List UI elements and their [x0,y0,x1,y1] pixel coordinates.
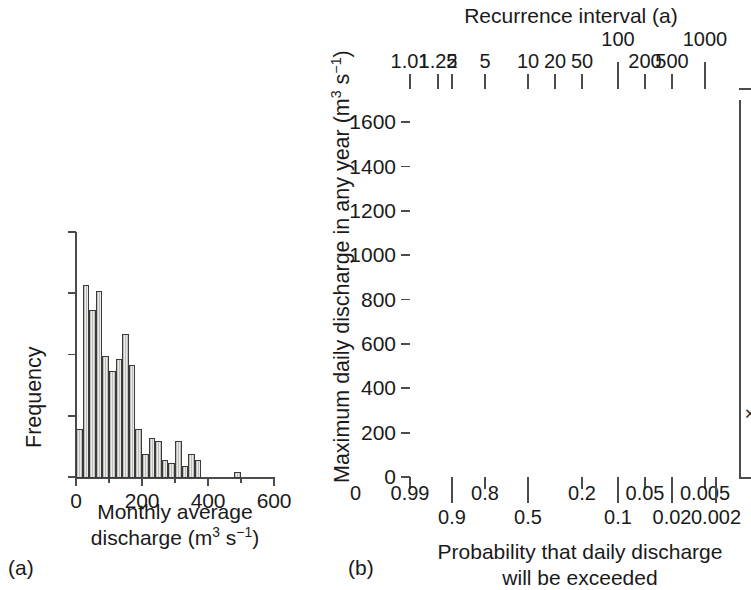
histogram-bar [96,291,103,478]
panel-b-caption: (b) [348,556,374,580]
histogram-bar-fill [84,286,89,477]
histogram-bar-fill [196,461,201,477]
panel-b-recurrence-label: 10 [517,50,539,72]
panel-b-probability-label: 0.5 [514,506,542,528]
panel-b-probability-tick [671,477,673,503]
histogram-bar-fill [90,311,95,477]
histogram-bar [102,356,109,479]
panel-b-y-tick-label: 1600 [349,110,396,134]
panel-b-recurrence-label: 100 [601,28,634,50]
panel-b-recurrence-tick [527,74,529,89]
histogram-bar-fill [163,461,168,477]
panel-b-probability-tick [527,477,529,503]
panel-b-recurrence-label: 5 [479,50,490,72]
histogram-bar-fill [183,467,188,477]
panel-b-probability-label: 0.2 [568,482,596,504]
histogram-bar [89,310,96,478]
panel-a-x-tick [207,477,209,486]
panel-a-histogram: Frequency 010203040 0200400600 Monthly a… [0,0,330,590]
panel-a-y-tick [68,354,76,356]
panel-b-recurrence-tick [554,74,556,89]
panel-b-probability-label: 0.9 [438,506,466,528]
panel-b-y-tick-label: 200 [361,421,396,445]
panel-b-probability-zero-label: 0 [350,482,361,504]
panel-b-y-tick [401,299,410,301]
panel-b-top-axis-line [739,88,751,90]
panel-b-recurrence-tick [484,74,486,89]
panel-b-y-tick [401,432,410,434]
panel-b-probability-label: 0.8 [471,482,499,504]
histogram-bar [109,371,116,478]
histogram-bar-fill [117,360,122,477]
histogram-bar [168,463,175,478]
histogram-bar [188,454,195,479]
panel-b-y-tick-label: 1200 [349,199,396,223]
histogram-bar-fill [123,335,128,477]
histogram-bar [116,359,123,478]
histogram-bar-fill [235,473,240,477]
panel-b-recurrence-tick [704,62,706,89]
panel-b-top-axis-title: Recurrence interval (a) [464,4,678,28]
panel-a-x-tick [141,477,143,486]
histogram-bar [135,429,142,478]
panel-b-data-area: ✕✕✕✕✕✕✕✕✕✕✕✕✕✕✕✕✕✕✕✕✕✕✕✕✕✕✕✕ [740,100,751,478]
panel-b-recurrence-label: 2 [446,50,457,72]
histogram-bar-fill [130,366,135,477]
panel-b-probability-label: 0.99 [391,482,430,504]
panel-b-flood-frequency: Recurrence interval (a) Maximum daily di… [330,0,751,590]
histogram-bar [129,365,136,478]
panel-b-y-tick [401,254,410,256]
histogram-bar-fill [77,430,82,477]
panel-b-y-tick-label: 1400 [349,155,396,179]
panel-b-probability-label: 0.05 [626,482,665,504]
panel-a-y-axis-title: Frequency [22,346,46,448]
panel-b-y-tick-label: 800 [361,288,396,312]
panel-b-y-tick [401,387,410,389]
panel-b-recurrence-label: 500 [655,50,688,72]
panel-a-x-tick-label: 600 [257,489,291,513]
histogram-bar [175,441,182,478]
panel-a-y-tick [68,231,76,233]
panel-b-recurrence-tick [671,74,673,89]
panel-b-probability-label: 0.1 [604,506,632,528]
histogram-bar [149,438,156,478]
panel-a-x-tick-label: 0 [70,489,81,513]
histogram-bar-fill [169,464,174,477]
histogram-bar [83,285,90,478]
figure-root: Frequency 010203040 0200400600 Monthly a… [0,0,751,590]
panel-b-recurrence-tick [409,74,411,89]
panel-b-y-tick-label: 600 [361,332,396,356]
panel-a-y-tick [68,292,76,294]
panel-b-probability-tick [451,477,453,503]
histogram-bar [155,441,162,478]
histogram-bar [76,429,83,478]
histogram-bar [142,454,149,479]
panel-b-recurrence-tick [451,74,453,89]
panel-b-y-tick [401,121,410,123]
histogram-bar-fill [136,430,141,477]
panel-b-probability-tick [617,477,619,503]
panel-b-recurrence-tick [644,74,646,89]
panel-b-probability-label: 0.002 [691,506,741,528]
panel-b-recurrence-tick [581,74,583,89]
panel-b-probability-label: 0.02 [653,506,692,528]
histogram-bar [195,460,202,478]
panel-b-y-tick [401,166,410,168]
histogram-bar-fill [97,292,102,477]
panel-a-x-axis-title: Monthly average discharge (m3 s−1) [91,500,259,549]
histogram-bar-fill [150,439,155,477]
panel-b-probability-label: 0.005 [680,482,730,504]
panel-a-bars [76,232,274,478]
panel-b-recurrence-label: 50 [571,50,593,72]
panel-b-y-tick-label: 1000 [349,243,396,267]
panel-a-caption: (a) [8,556,34,580]
histogram-bar-fill [103,357,108,478]
panel-b-probability-tick [715,477,717,503]
histogram-bar [182,466,189,478]
panel-b-y-tick [401,343,410,345]
panel-a-x-tick [75,477,77,486]
panel-b-y-tick [401,210,410,212]
panel-b-recurrence-tick [437,74,439,89]
data-point-marker: ✕ [744,406,751,421]
histogram-bar-fill [156,442,161,477]
